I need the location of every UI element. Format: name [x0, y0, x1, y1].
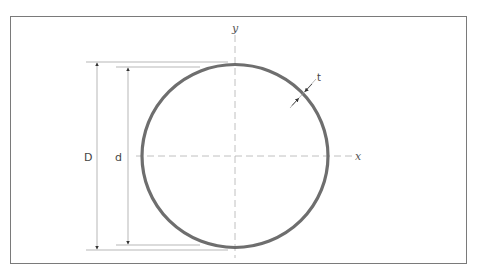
diagram-frame: [11, 17, 467, 264]
x-axis-label: x: [355, 150, 362, 163]
thickness-arrow-outer: [305, 84, 312, 92]
thickness-label: t: [317, 72, 321, 83]
y-axis-label: y: [231, 22, 239, 35]
thickness-arrow-inner: [292, 99, 299, 106]
inner-diameter-label: d: [115, 151, 122, 164]
outer-diameter-label: D: [84, 151, 92, 164]
section-diagram: D d t x y: [0, 0, 486, 277]
